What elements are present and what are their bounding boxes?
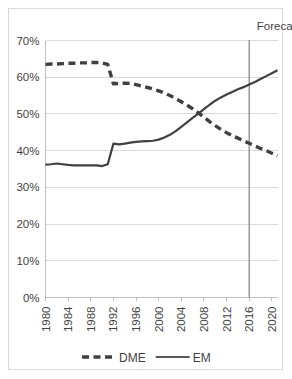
y-axis-label: 20% — [16, 218, 39, 230]
x-axis-labels-group: 1980198419881992199620002004200820122016… — [40, 306, 278, 332]
forecast-label: Forecast — [257, 20, 292, 32]
x-axis-label: 1984 — [62, 306, 74, 332]
y-axis-label: 40% — [16, 145, 39, 157]
x-axis-label: 1996 — [130, 307, 142, 333]
x-axis-label: 2000 — [153, 307, 165, 333]
x-axis-label: 2012 — [221, 307, 233, 333]
legend-group: DMEEM — [82, 351, 211, 365]
series-line-dme — [46, 63, 278, 156]
legend-label-dme: DME — [119, 351, 146, 365]
y-axis-label: 30% — [16, 181, 39, 193]
x-axis-label: 1980 — [40, 307, 52, 333]
gridlines-group — [46, 41, 278, 298]
x-axis-label: 2020 — [266, 307, 278, 333]
y-axis-label: 70% — [16, 35, 39, 47]
y-axis-label: 60% — [16, 71, 39, 83]
y-axis-label: 50% — [16, 108, 39, 120]
x-axis-label: 2004 — [175, 306, 187, 332]
forecast-annotation-group: Forecast — [249, 20, 292, 298]
line-chart[interactable]: 0%10%20%30%40%50%60%70% 1980198419881992… — [0, 0, 292, 379]
chart-plot-wrapper: 0%10%20%30%40%50%60%70% 1980198419881992… — [0, 0, 292, 379]
y-axis-labels-group: 0%10%20%30%40%50%60%70% — [16, 35, 39, 304]
series-line-em — [46, 70, 278, 166]
y-axis-label: 0% — [23, 292, 40, 304]
x-axis-label: 1992 — [107, 307, 119, 333]
x-axis-label: 2016 — [243, 307, 255, 333]
x-axis-label: 1988 — [85, 307, 97, 333]
y-axis-label: 10% — [16, 255, 39, 267]
x-axis-label: 2008 — [198, 307, 210, 333]
legend-label-em: EM — [193, 351, 211, 365]
